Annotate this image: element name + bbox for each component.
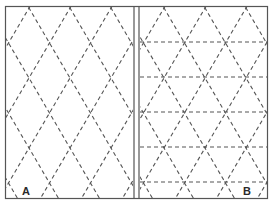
panel-b-triangle-grid (0, 0, 270, 206)
panel-label-a: A (22, 186, 30, 197)
figure: A B (0, 0, 270, 206)
pattern-diagram (0, 0, 270, 206)
panel-label-b: B (243, 186, 251, 197)
outer-border (6, 7, 268, 199)
